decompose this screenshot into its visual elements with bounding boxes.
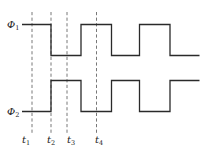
timing-diagram: Φ1 Φ2 t1 t2 t3 t4: [0, 0, 207, 150]
t4-label: t4: [95, 134, 103, 147]
t1-label: t1: [22, 134, 30, 147]
time-marker-lines: [32, 12, 97, 133]
time-marker-labels: t1 t2 t3 t4: [22, 134, 103, 147]
phi2-label: Φ2: [7, 106, 19, 119]
phi2-waveform: [22, 81, 200, 112]
t3-label: t3: [67, 134, 75, 147]
phi1-label: Φ1: [7, 19, 19, 32]
phi1-waveform: [22, 25, 200, 56]
t2-label: t2: [47, 134, 55, 147]
